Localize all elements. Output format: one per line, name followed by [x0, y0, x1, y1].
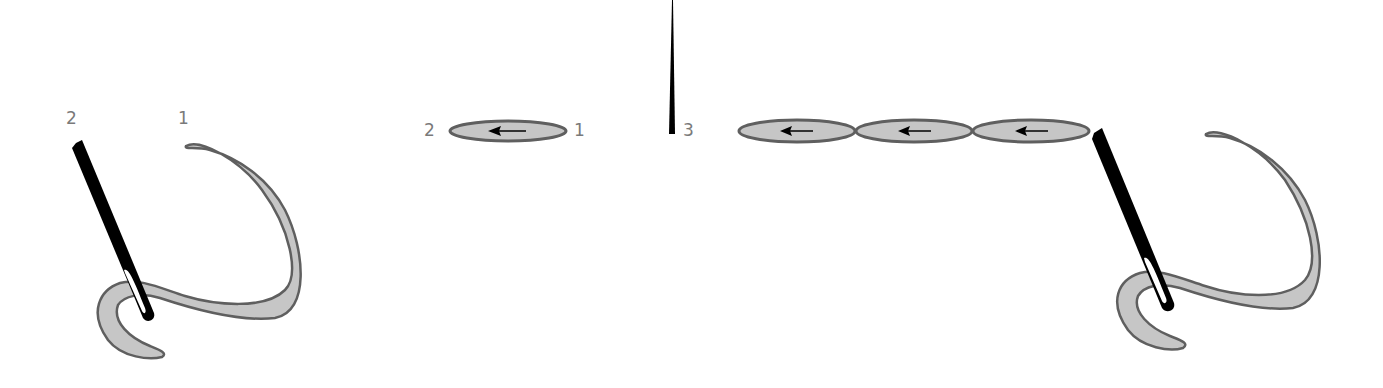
- step1-label-needle: 2: [66, 110, 77, 127]
- stitch-3: [973, 120, 1089, 142]
- step4-stitches: [739, 120, 1089, 142]
- step1-label-thread: 1: [178, 110, 189, 127]
- stitch-2: [856, 120, 972, 142]
- step2-label-left: 2: [424, 122, 435, 139]
- step2-stitch: [450, 121, 566, 141]
- step2-label-right: 1: [574, 122, 585, 139]
- stitch-1: [739, 120, 855, 142]
- step3-label: 3: [683, 122, 694, 139]
- stitch-diagram: [0, 0, 1383, 388]
- step3-needle: [669, 0, 675, 134]
